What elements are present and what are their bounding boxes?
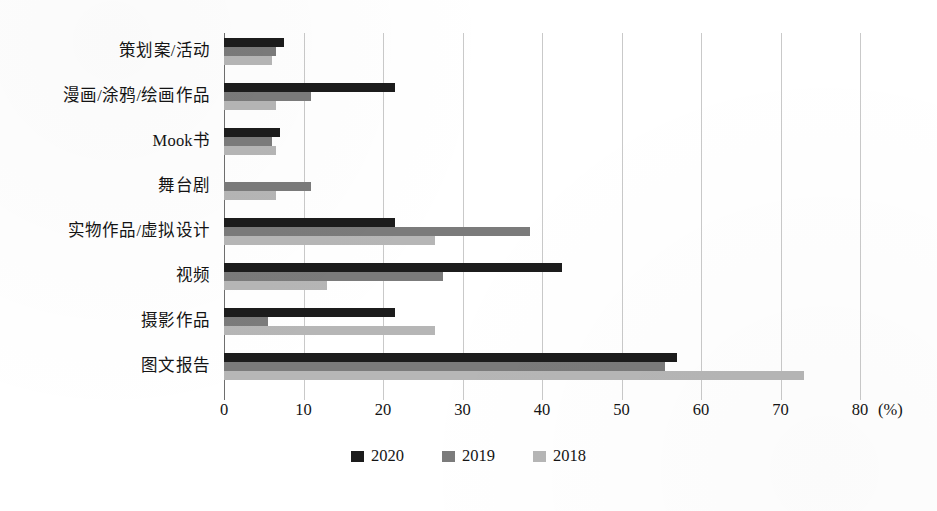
bar-group — [224, 83, 860, 110]
value-axis-labels: (%) 01020304050607080 — [0, 400, 937, 426]
bar-2018 — [224, 56, 272, 65]
horizontal-bar-chart: 策划案/活动漫画/涂鸦/绘画作品Mook书舞台剧实物作品/虚拟设计视频摄影作品图… — [0, 0, 937, 511]
category-label: 视频 — [0, 268, 210, 285]
bar-group — [224, 263, 860, 290]
bar-group — [224, 128, 860, 155]
legend-item-2020[interactable]: 2020 — [351, 448, 404, 465]
category-label: 实物作品/虚拟设计 — [0, 223, 210, 240]
bar-2020 — [224, 263, 562, 272]
category-label: 摄影作品 — [0, 313, 210, 330]
bar-2019 — [224, 182, 311, 191]
chart-legend: 202020192018 — [0, 448, 937, 465]
bar-2019 — [224, 92, 311, 101]
bar-2020 — [224, 38, 284, 47]
bar-group — [224, 218, 860, 245]
x-tick-label-10: 10 — [284, 402, 324, 419]
plot-area — [224, 33, 860, 400]
bar-2020 — [224, 353, 677, 362]
legend-label: 2018 — [553, 448, 586, 465]
bar-2020 — [224, 308, 395, 317]
x-tick-label-20: 20 — [363, 402, 403, 419]
bar-2020 — [224, 83, 395, 92]
category-axis-labels: 策划案/活动漫画/涂鸦/绘画作品Mook书舞台剧实物作品/虚拟设计视频摄影作品图… — [0, 33, 218, 400]
category-label: 策划案/活动 — [0, 43, 210, 60]
x-tick-label-40: 40 — [522, 402, 562, 419]
bar-group — [224, 308, 860, 335]
legend-swatch-icon — [533, 451, 546, 462]
legend-swatch-icon — [442, 451, 455, 462]
legend-item-2019[interactable]: 2019 — [442, 448, 495, 465]
x-tick-label-0: 0 — [204, 402, 244, 419]
legend-label: 2019 — [462, 448, 495, 465]
x-tick-label-80: 80 — [840, 402, 880, 419]
bar-2018 — [224, 236, 435, 245]
axis-unit-label: (%) — [878, 402, 903, 419]
bar-2018 — [224, 146, 276, 155]
bar-2019 — [224, 47, 276, 56]
legend-label: 2020 — [371, 448, 404, 465]
gridline-80 — [860, 33, 861, 400]
category-label: 图文报告 — [0, 358, 210, 375]
bar-2019 — [224, 272, 443, 281]
bar-2018 — [224, 281, 327, 290]
bar-group — [224, 173, 860, 200]
x-tick-label-70: 70 — [761, 402, 801, 419]
bar-2018 — [224, 371, 804, 380]
bar-group — [224, 38, 860, 65]
legend-item-2018[interactable]: 2018 — [533, 448, 586, 465]
bar-2019 — [224, 317, 268, 326]
bar-2019 — [224, 137, 272, 146]
bar-2019 — [224, 362, 665, 371]
x-tick-label-50: 50 — [602, 402, 642, 419]
bar-2018 — [224, 191, 276, 200]
bar-2020 — [224, 128, 280, 137]
bar-2018 — [224, 101, 276, 110]
category-label: 舞台剧 — [0, 178, 210, 195]
x-tick-label-60: 60 — [681, 402, 721, 419]
bar-2018 — [224, 326, 435, 335]
bar-2020 — [224, 218, 395, 227]
bar-2019 — [224, 227, 530, 236]
category-label: Mook书 — [0, 133, 210, 150]
legend-swatch-icon — [351, 451, 364, 462]
x-tick-label-30: 30 — [443, 402, 483, 419]
category-label: 漫画/涂鸦/绘画作品 — [0, 88, 210, 105]
bar-group — [224, 353, 860, 380]
